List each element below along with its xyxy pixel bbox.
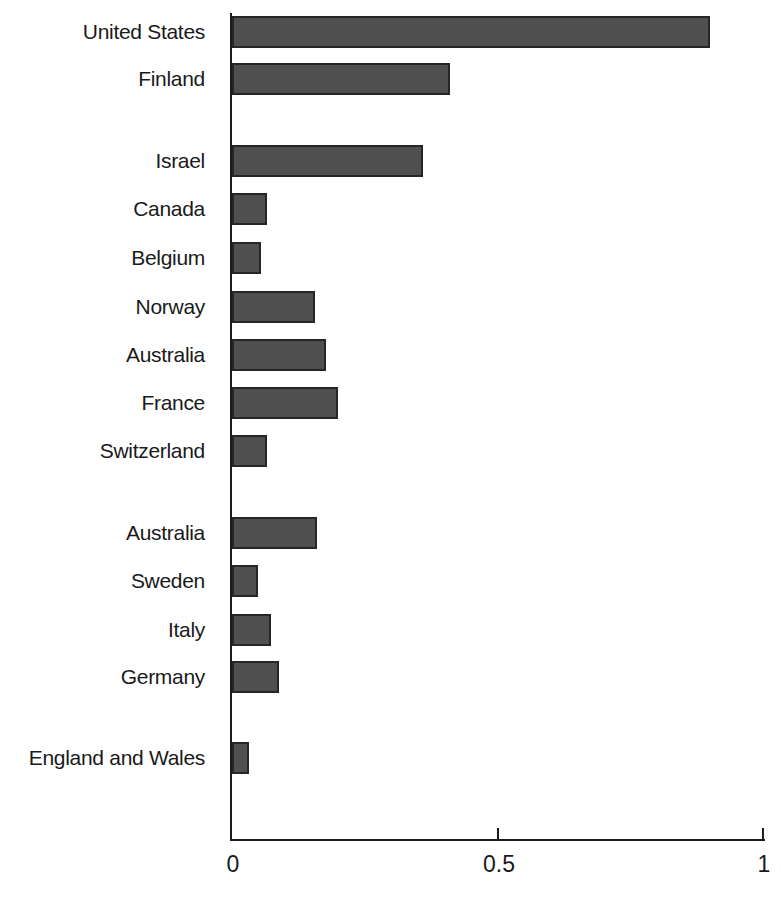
bar-sweden-10 (232, 565, 258, 597)
x-tick-label-0: 0 (227, 851, 240, 878)
bar-finland-1 (232, 63, 450, 95)
bar-united-states-0 (232, 16, 710, 48)
category-label-israel-2: Israel (0, 149, 205, 173)
x-tick-label-1: 1 (758, 851, 771, 878)
category-label-belgium-4: Belgium (0, 246, 205, 270)
bar-australia-6 (232, 339, 326, 371)
x-tick-label-0.5: 0.5 (483, 851, 515, 878)
y-axis-line (230, 13, 232, 841)
category-label-germany-12: Germany (0, 665, 205, 689)
bar-switzerland-8 (232, 435, 267, 467)
category-label-england-and-wales-13: England and Wales (0, 746, 205, 770)
category-label-italy-11: Italy (0, 618, 205, 642)
category-label-norway-5: Norway (0, 295, 205, 319)
bar-norway-5 (232, 291, 315, 323)
bar-australia-9 (232, 517, 317, 549)
bar-england-and-wales-13 (232, 742, 249, 774)
category-label-australia-9: Australia (0, 521, 205, 545)
bar-germany-12 (232, 661, 279, 693)
bar-chart: United StatesFinlandIsraelCanadaBelgiumN… (0, 0, 782, 900)
category-label-australia-6: Australia (0, 343, 205, 367)
x-axis-line (230, 839, 765, 841)
category-label-switzerland-8: Switzerland (0, 439, 205, 463)
bar-israel-2 (232, 145, 423, 177)
category-label-sweden-10: Sweden (0, 569, 205, 593)
category-label-united-states-0: United States (0, 20, 205, 44)
category-label-finland-1: Finland (0, 67, 205, 91)
bar-canada-3 (232, 193, 267, 225)
bar-france-7 (232, 387, 338, 419)
bar-belgium-4 (232, 242, 261, 274)
category-label-canada-3: Canada (0, 197, 205, 221)
x-tick-mark-1 (762, 828, 764, 839)
x-tick-mark-0.5 (497, 828, 499, 839)
category-label-france-7: France (0, 391, 205, 415)
bar-italy-11 (232, 614, 271, 646)
